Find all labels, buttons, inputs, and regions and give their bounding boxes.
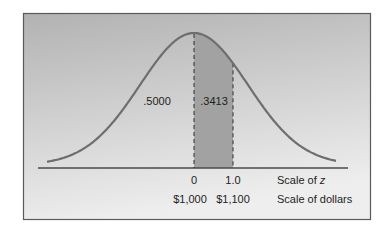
z-variable: z bbox=[319, 174, 326, 186]
shaded-area-label: .3413 bbox=[200, 95, 228, 107]
dollar-scale-label: Scale of dollars bbox=[277, 193, 353, 205]
dollar-tick-1: $1,100 bbox=[216, 193, 250, 205]
normal-curve-figure: .5000 .3413 0 1.0 Scale of z $1,000 $1,1… bbox=[0, 0, 391, 233]
z-scale-label: Scale of z bbox=[277, 174, 326, 186]
left-half-area-label: .5000 bbox=[143, 95, 171, 107]
z-tick-0: 0 bbox=[191, 174, 197, 186]
z-tick-1: 1.0 bbox=[225, 174, 240, 186]
dollar-tick-0: $1,000 bbox=[173, 193, 207, 205]
z-scale-label-prefix: Scale of bbox=[277, 174, 320, 186]
